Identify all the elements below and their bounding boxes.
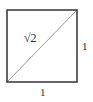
right-side-label: 1 [82,40,88,52]
unit-square-diagram: √2 1 1 [0,0,93,102]
diagonal-label: √2 [24,31,37,45]
bottom-side-label: 1 [40,86,46,98]
diagonal-line [7,10,77,82]
